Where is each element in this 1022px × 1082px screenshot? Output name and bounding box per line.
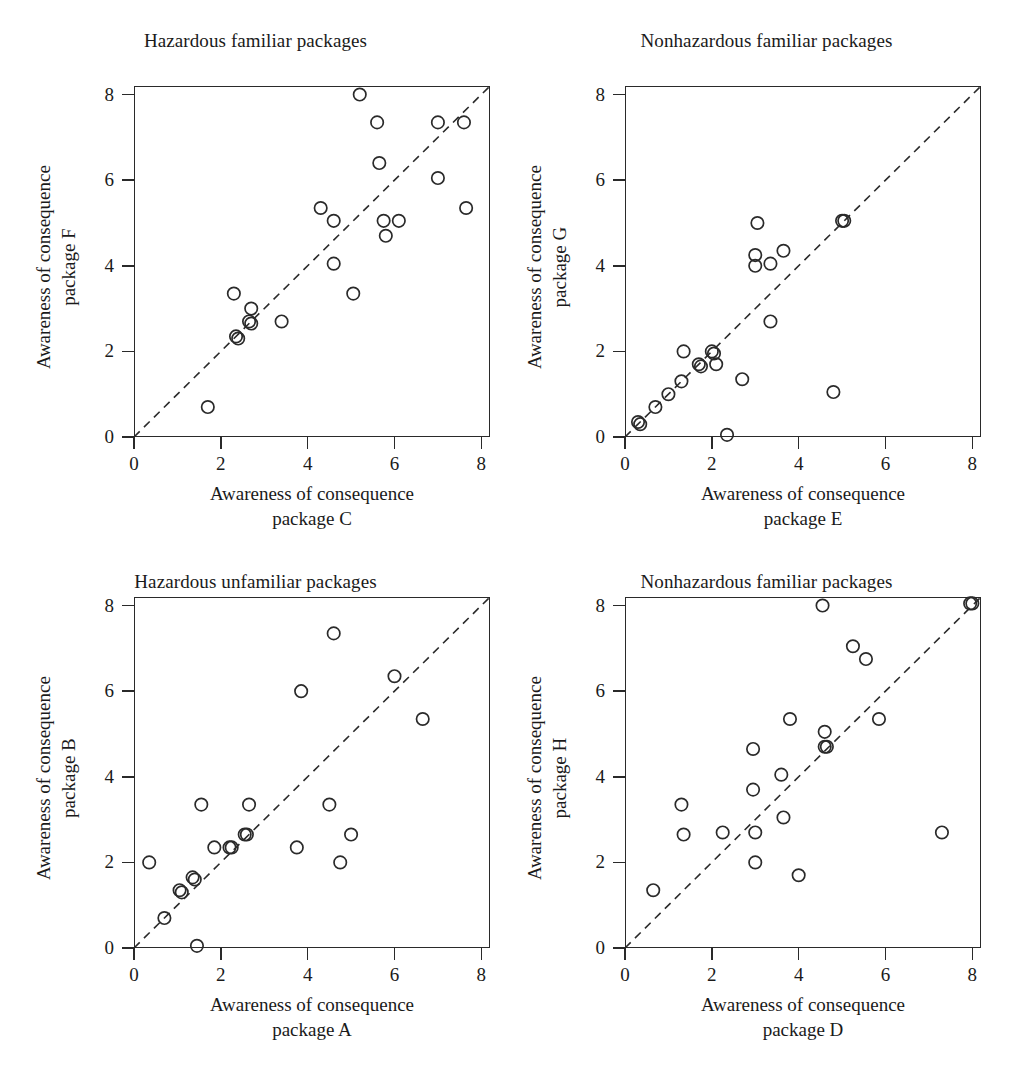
y-axis-label-line1: Awareness of consequence [31, 602, 56, 953]
data-point [827, 386, 839, 398]
data-point [347, 287, 359, 299]
data-points-group [202, 88, 473, 413]
data-point [228, 287, 240, 299]
data-point [675, 798, 687, 810]
y-tick-mark [122, 265, 134, 267]
panel-nonhazardous-familiar-g: Nonhazardous familiar packages 024680246… [511, 0, 1022, 541]
data-point [764, 315, 776, 327]
reference-line-group [134, 86, 490, 437]
x-tick-mark [394, 948, 396, 960]
data-point [751, 217, 763, 229]
x-tick-mark [711, 948, 713, 960]
y-axis-label: Awareness of consequencepackage H [522, 602, 572, 953]
data-point [291, 841, 303, 853]
x-tick-label: 6 [381, 964, 407, 986]
panel-title: Nonhazardous familiar packages [511, 571, 1022, 593]
x-tick-label: 6 [872, 964, 898, 986]
x-tick-mark [481, 437, 483, 449]
plot-area: 0246802468Awareness of consequencepackag… [134, 86, 490, 437]
plot-canvas [134, 86, 490, 437]
data-point [373, 157, 385, 169]
y-tick-label: 8 [579, 595, 605, 617]
data-point [860, 653, 872, 665]
data-point [328, 257, 340, 269]
data-point [777, 245, 789, 257]
x-tick-label: 2 [699, 964, 725, 986]
data-point [749, 856, 761, 868]
x-tick-label: 4 [295, 964, 321, 986]
data-point [208, 841, 220, 853]
x-axis-label-line1: Awareness of consequence [625, 481, 981, 506]
data-points-group [632, 215, 851, 441]
data-point [328, 627, 340, 639]
y-tick-mark [122, 94, 134, 96]
plot-area: 0246802468Awareness of consequencepackag… [625, 86, 981, 437]
data-point [873, 713, 885, 725]
plot-canvas [625, 597, 981, 948]
data-point [847, 640, 859, 652]
data-point [777, 811, 789, 823]
data-point [354, 88, 366, 100]
y-axis-label: Awareness of consequencepackage B [31, 602, 81, 953]
x-tick-label: 6 [872, 453, 898, 475]
scatter-plot-figure: Hazardous familiar packages 0246802468Aw… [0, 0, 1022, 1082]
identity-reference-line [625, 86, 981, 437]
data-point [816, 599, 828, 611]
y-tick-label: 2 [88, 851, 114, 873]
y-axis-label-line2: package H [547, 602, 572, 953]
y-axis-label-line1: Awareness of consequence [31, 91, 56, 442]
data-point [747, 783, 759, 795]
x-tick-label: 0 [612, 453, 638, 475]
y-axis-label-line2: package B [56, 602, 81, 953]
y-axis-label-line2: package G [547, 91, 572, 442]
plot-canvas [134, 597, 490, 948]
x-axis-label: Awareness of consequencepackage D [625, 992, 981, 1042]
y-tick-mark [122, 690, 134, 692]
data-point [191, 940, 203, 952]
data-point [677, 828, 689, 840]
y-tick-label: 8 [579, 84, 605, 106]
x-tick-label: 4 [786, 453, 812, 475]
panel-hazardous-unfamiliar: Hazardous unfamiliar packages 0246802468… [0, 541, 511, 1082]
y-axis-label: Awareness of consequencepackage G [522, 91, 572, 442]
data-point [334, 856, 346, 868]
x-tick-mark [220, 948, 222, 960]
y-tick-label: 2 [579, 851, 605, 873]
y-tick-mark [122, 947, 134, 949]
y-axis-label: Awareness of consequencepackage F [31, 91, 81, 442]
panel-title: Hazardous unfamiliar packages [0, 571, 511, 593]
x-axis-label: Awareness of consequencepackage E [625, 481, 981, 531]
y-tick-mark [613, 265, 625, 267]
x-tick-label: 0 [612, 964, 638, 986]
data-point [432, 116, 444, 128]
data-point [764, 257, 776, 269]
x-tick-label: 8 [468, 964, 494, 986]
x-tick-mark [972, 948, 974, 960]
y-tick-mark [613, 179, 625, 181]
data-point [328, 215, 340, 227]
data-point [417, 713, 429, 725]
x-axis-label-line2: package A [134, 1017, 490, 1042]
y-tick-label: 2 [579, 340, 605, 362]
x-tick-mark [885, 437, 887, 449]
reference-line-group [625, 86, 981, 437]
x-tick-label: 2 [208, 453, 234, 475]
y-tick-label: 6 [88, 169, 114, 191]
data-point [458, 116, 470, 128]
y-tick-mark [122, 605, 134, 607]
x-tick-mark [481, 948, 483, 960]
data-point [747, 743, 759, 755]
data-point [371, 116, 383, 128]
x-axis-label-line2: package E [625, 506, 981, 531]
panel-nonhazardous-familiar-h: Nonhazardous familiar packages 024680246… [511, 541, 1022, 1082]
data-point [380, 230, 392, 242]
data-point [314, 202, 326, 214]
y-tick-label: 4 [88, 766, 114, 788]
data-point [749, 826, 761, 838]
data-point [323, 798, 335, 810]
y-tick-mark [613, 351, 625, 353]
y-tick-label: 0 [88, 426, 114, 448]
data-point [819, 726, 831, 738]
y-tick-mark [613, 947, 625, 949]
x-tick-mark [624, 948, 626, 960]
